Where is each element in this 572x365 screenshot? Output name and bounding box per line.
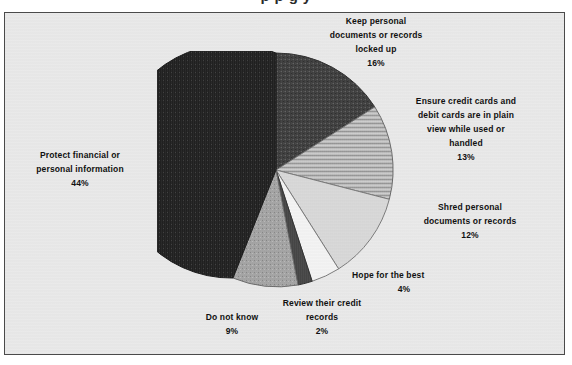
pie-label-line: Hope for the best	[352, 270, 424, 280]
pie-label-line: handled	[449, 138, 483, 148]
pie-label-line: Review their credit	[283, 298, 361, 308]
pie-label-line: documents or records	[424, 216, 517, 226]
pie-label-hope-for-the-best: Hope for the best 4%	[352, 268, 482, 296]
pie-label-credit-cards-plain-view: Ensure credit cards and debit cards are …	[378, 94, 554, 164]
pie-label-line: locked up	[355, 44, 396, 54]
pie-label-line: personal information	[36, 164, 124, 174]
pie-label-line: Protect financial or	[40, 150, 120, 160]
pie-label-line: Shred personal	[438, 202, 502, 212]
cropped-title-text: p p g y	[0, 0, 572, 5]
pie-label-percent: 4%	[352, 282, 456, 296]
screenshot-root: p p g y	[0, 0, 572, 365]
pie-label-line: view while used or	[427, 124, 505, 134]
pie-label-keep-locked-up: Keep personal documents or records locke…	[304, 14, 448, 70]
pie-label-percent: 13%	[378, 150, 554, 164]
pie-label-line: Ensure credit cards and	[416, 96, 516, 106]
pie-label-line: documents or records	[330, 30, 423, 40]
pie-label-percent: 16%	[304, 56, 448, 70]
pie-label-line: debit cards are in plain	[418, 110, 514, 120]
pie-chart	[157, 51, 395, 289]
pie-label-percent: 12%	[392, 228, 548, 242]
pie-label-shred-documents: Shred personal documents or records 12%	[392, 200, 548, 242]
pie-label-line: Do not know	[206, 312, 259, 322]
pie-label-protect-financial-info: Protect financial or personal informatio…	[12, 148, 148, 190]
pie-label-percent: 9%	[176, 324, 288, 338]
pie-label-do-not-know: Do not know 9%	[176, 310, 288, 338]
pie-label-line: Keep personal	[346, 16, 407, 26]
pie-label-percent: 44%	[12, 176, 148, 190]
pie-label-line: records	[306, 312, 338, 322]
pie-chart-svg	[157, 51, 395, 289]
